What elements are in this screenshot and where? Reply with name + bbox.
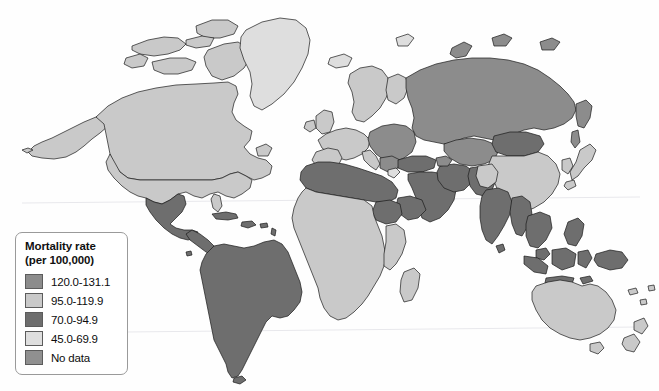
- legend-items: 120.0-131.1 95.0-119.9 70.0-94.9 45.0-69…: [25, 272, 119, 367]
- legend-title: Mortality rate (per 100,000): [25, 240, 119, 267]
- world-map-figure: Mortality rate (per 100,000) 120.0-131.1…: [0, 0, 659, 391]
- region-turkey[interactable]: [398, 156, 436, 172]
- legend-title-line2: (per 100,000): [25, 254, 119, 268]
- legend-item-95-119[interactable]: 95.0-119.9: [25, 291, 119, 310]
- region-galapagos[interactable]: [186, 251, 192, 256]
- legend-label-no-data: No data: [51, 352, 90, 364]
- legend-label-95-119: 95.0-119.9: [51, 295, 103, 307]
- region-sudan-region[interactable]: [372, 200, 402, 224]
- legend-swatch-no-data: [25, 350, 43, 365]
- legend-item-45-69[interactable]: 45.0-69.9: [25, 329, 119, 348]
- region-pacific-islands[interactable]: [640, 299, 647, 305]
- map-legend: Mortality rate (per 100,000) 120.0-131.1…: [15, 232, 128, 375]
- legend-item-70-94[interactable]: 70.0-94.9: [25, 310, 119, 329]
- legend-label-70-94: 70.0-94.9: [51, 314, 98, 326]
- region-puerto-rico[interactable]: [260, 223, 268, 228]
- legend-swatch-95-119: [25, 293, 43, 308]
- legend-swatch-45-69: [25, 331, 43, 346]
- legend-swatch-70-94: [25, 312, 43, 327]
- legend-title-line1: Mortality rate: [25, 240, 119, 254]
- legend-item-no-data[interactable]: No data: [25, 348, 119, 367]
- legend-label-120-131: 120.0-131.1: [51, 276, 110, 288]
- legend-item-120-131[interactable]: 120.0-131.1: [25, 272, 119, 291]
- legend-swatch-120-131: [25, 274, 43, 289]
- region-fiji[interactable]: [648, 285, 655, 291]
- legend-label-45-69: 45.0-69.9: [51, 333, 98, 345]
